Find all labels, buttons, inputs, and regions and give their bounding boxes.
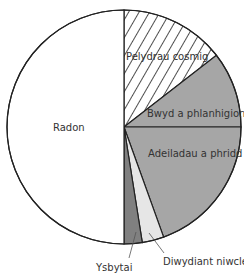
pie-slices [7,10,241,244]
pie-chart [0,0,244,276]
slice-label-nuclear: Diwydiant niwclear [163,256,244,268]
slice-label-hospitals: Ysbytai [96,262,132,274]
slice-label-buildings: Adeiladau a phridd [148,148,242,160]
slice-label-cosmic: Pelydrau cosmig [126,51,208,63]
slice-label-radon: Radon [53,122,85,134]
slice-label-food: Bwyd a phlanhigion [147,108,244,120]
